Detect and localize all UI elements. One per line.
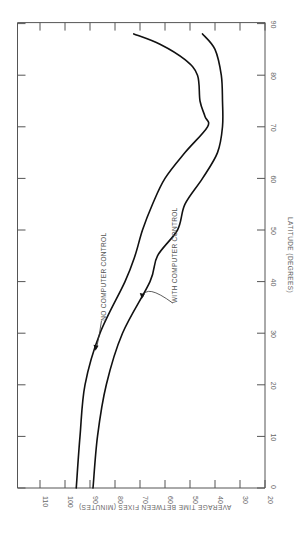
time-tick-label: 100: [67, 496, 74, 508]
time-tick-label: 70: [142, 496, 149, 504]
leader-line: [97, 321, 102, 349]
time-tick-label: 30: [242, 496, 249, 504]
plot-border: [18, 23, 266, 488]
latitude-tick-label: 20: [270, 382, 277, 390]
latitude-tick-label: 30: [270, 330, 277, 338]
latitude-tick-label: 90: [270, 21, 277, 29]
no-computer-control-label: NO COMPUTER CONTROL: [100, 233, 107, 321]
time-tick-label: 60: [167, 496, 174, 504]
axis-ticks: 2030405060708090100110010203040506070809…: [18, 21, 278, 508]
time-tick-label: 20: [267, 496, 274, 504]
no-computer-control-curve: [76, 34, 208, 488]
latitude-tick-label: 40: [270, 279, 277, 287]
latitude-tick-label: 10: [270, 433, 277, 441]
curves: [76, 34, 223, 488]
with-computer-control-label: WITH COMPUTER CONTROL: [171, 208, 178, 304]
latitude-tick-label: 60: [270, 175, 277, 183]
latitude-tick-label: 80: [270, 72, 277, 80]
leader-line: [143, 291, 173, 303]
latitude-axis-label: LATITUDE (DEGREES): [286, 217, 294, 293]
latitude-tick-label: 50: [270, 227, 277, 235]
time-axis-label: AVERAGE TIME BETWEEN FIXES (MINUTES): [79, 503, 231, 511]
latitude-tick-label: 70: [270, 124, 277, 132]
chart: 2030405060708090100110010203040506070809…: [0, 0, 304, 542]
time-tick-label: 110: [42, 496, 49, 507]
time-tick-label: 50: [192, 496, 199, 504]
time-tick-label: 40: [217, 496, 224, 504]
latitude-tick-label: 0: [270, 485, 277, 489]
with-computer-control-curve: [93, 34, 223, 488]
time-tick-label: 80: [117, 496, 124, 504]
curve-annotations: NO COMPUTER CONTROLWITH COMPUTER CONTROL: [94, 208, 178, 351]
plot-frame: [18, 23, 266, 488]
time-tick-label: 90: [92, 496, 99, 504]
